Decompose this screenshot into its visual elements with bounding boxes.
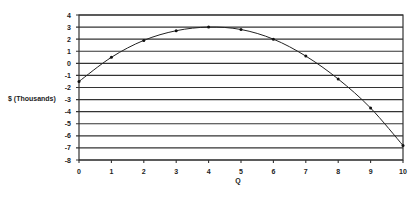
y-axis-label: $ (Thousands) [8,95,56,103]
x-axis-ticks: 012345678910 [77,160,407,175]
data-point-marker [304,55,307,58]
data-point-marker [78,80,81,83]
x-tick-label: 8 [336,168,340,175]
y-axis-ticks: 43210-1-2-3-4-5-6-7-8 [65,12,71,164]
x-tick-label: 5 [239,168,243,175]
x-tick-label: 9 [369,168,373,175]
data-point-marker [175,29,178,32]
data-line [79,27,403,145]
data-point-marker [272,38,275,41]
y-tick-label: -8 [65,157,71,164]
y-tick-label: -4 [65,108,71,115]
x-tick-label: 10 [399,168,407,175]
data-point-marker [110,56,113,59]
line-chart: 43210-1-2-3-4-5-6-7-8 012345678910 $ (Th… [0,0,418,197]
y-tick-label: 3 [67,24,71,31]
x-tick-label: 2 [142,168,146,175]
x-tick-label: 7 [304,168,308,175]
y-tick-label: 0 [67,60,71,67]
y-tick-label: -1 [65,72,71,79]
x-tick-label: 6 [271,168,275,175]
x-axis-label: Q [235,177,241,185]
data-point-marker [369,107,372,110]
y-tick-label: -6 [65,132,71,139]
x-tick-label: 3 [174,168,178,175]
y-tick-label: -5 [65,120,71,127]
y-tick-label: -2 [65,84,71,91]
x-tick-label: 4 [207,168,211,175]
data-point-marker [337,78,340,81]
y-tick-label: -7 [65,144,71,151]
data-point-marker [142,39,145,42]
data-point-marker [240,28,243,31]
x-tick-label: 0 [77,168,81,175]
y-tick-label: 4 [67,12,71,19]
horizontal-gridlines [76,15,403,160]
x-tick-label: 1 [109,168,113,175]
y-tick-label: 2 [67,36,71,43]
data-point-marker [402,144,405,147]
y-tick-label: 1 [67,48,71,55]
y-tick-label: -3 [65,96,71,103]
data-point-marker [207,26,210,29]
data-points [78,26,405,147]
